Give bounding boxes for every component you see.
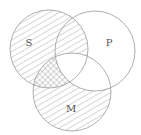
venn-diagram: S P M	[0, 0, 141, 135]
label-s: S	[26, 37, 33, 48]
label-m: M	[66, 103, 76, 114]
venn-svg: S P M	[0, 0, 141, 135]
label-p: P	[106, 37, 113, 48]
